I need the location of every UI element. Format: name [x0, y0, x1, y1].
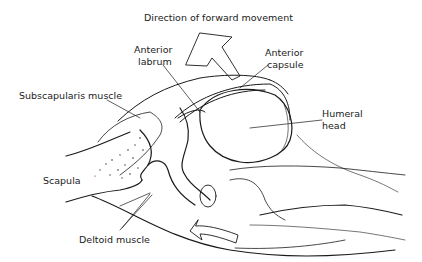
- forward-arrow-icon: [186, 33, 240, 80]
- label-anterior-capsule-line2: capsule: [267, 59, 304, 70]
- shoulder-anatomy-diagram: Direction of forward movement Anterior l…: [0, 0, 422, 262]
- label-humeral-head-line2: head: [322, 120, 346, 131]
- label-humeral-head-line1: Humeral: [322, 108, 363, 119]
- label-anterior-labrum-line1: Anterior: [134, 44, 172, 55]
- label-subscapularis-muscle: Subscapularis muscle: [19, 90, 122, 101]
- label-scapula: Scapula: [43, 175, 81, 186]
- anatomy-illustration: [0, 0, 422, 262]
- label-direction-of-movement: Direction of forward movement: [144, 12, 293, 23]
- label-deltoid-muscle: Deltoid muscle: [79, 234, 150, 245]
- label-anterior-labrum-line2: labrum: [138, 56, 172, 67]
- rotation-arrow-icon: [190, 220, 238, 243]
- label-anterior-capsule-line1: Anterior: [265, 47, 303, 58]
